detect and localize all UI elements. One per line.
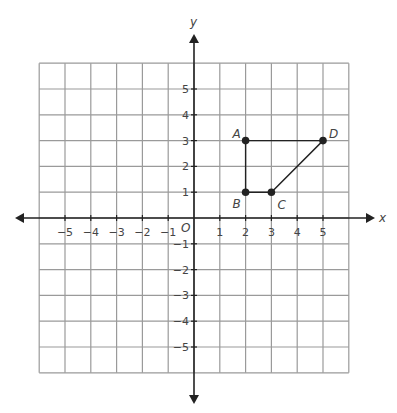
coordinate-plane: xyO −5−4−3−2−112345−5−4−3−2−112345 ABCD — [0, 0, 397, 413]
x-axis-label: x — [378, 211, 387, 225]
point-b — [242, 188, 250, 196]
x-axis-right-arrow-icon — [366, 213, 375, 223]
y-tick-label: 2 — [182, 160, 189, 173]
x-tick-label: −5 — [57, 226, 73, 239]
x-tick-label: 1 — [216, 226, 223, 239]
point-a — [242, 137, 250, 145]
axes: xyO — [15, 15, 387, 404]
y-tick-label: 1 — [182, 186, 189, 199]
y-tick-label: −5 — [173, 341, 189, 354]
y-tick-label: 3 — [182, 135, 189, 148]
y-tick-label: −2 — [173, 264, 189, 277]
x-tick-label: 3 — [268, 226, 275, 239]
x-tick-label: 5 — [320, 226, 327, 239]
point-label-a: A — [232, 127, 241, 141]
origin-label: O — [181, 221, 190, 235]
point-label-b: B — [233, 197, 241, 211]
x-tick-label: −4 — [83, 226, 99, 239]
x-tick-label: 2 — [242, 226, 249, 239]
quadrilateral-abcd: ABCD — [232, 127, 339, 213]
point-label-d: D — [329, 127, 338, 141]
point-c — [268, 188, 276, 196]
y-axis-top-arrow-icon — [189, 34, 199, 43]
x-tick-label: 4 — [294, 226, 301, 239]
point-label-c: C — [277, 198, 286, 212]
y-tick-label: 4 — [182, 109, 189, 122]
x-tick-label: −2 — [134, 226, 150, 239]
point-d — [319, 137, 327, 145]
y-axis-label: y — [189, 15, 198, 29]
y-tick-label: −1 — [173, 238, 189, 251]
x-axis-left-arrow-icon — [15, 213, 24, 223]
y-tick-label: 5 — [182, 83, 189, 96]
x-tick-label: −3 — [108, 226, 124, 239]
y-axis-bottom-arrow-icon — [189, 395, 199, 404]
y-tick-label: −3 — [173, 289, 189, 302]
y-tick-label: −4 — [173, 315, 189, 328]
